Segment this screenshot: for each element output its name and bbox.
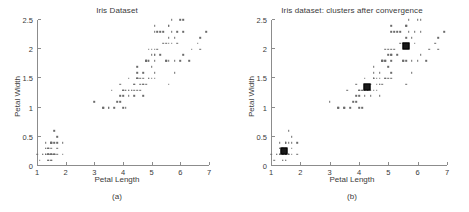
x-tick (330, 162, 331, 165)
data-point (288, 154, 290, 156)
x-axis-line (271, 165, 447, 166)
data-point (145, 83, 147, 85)
data-point (48, 159, 50, 161)
data-point (349, 107, 351, 109)
data-point (388, 66, 390, 68)
data-point (390, 54, 392, 56)
y-tick (272, 77, 275, 78)
data-point (385, 48, 387, 50)
data-point (148, 48, 150, 50)
data-point (188, 60, 190, 62)
data-point (355, 101, 357, 103)
data-point (177, 31, 179, 33)
data-point (139, 89, 141, 91)
data-point (426, 60, 428, 62)
data-point (443, 31, 445, 33)
data-point (119, 95, 121, 97)
panel-a-title: Iris Dataset (0, 6, 234, 15)
data-point (364, 95, 366, 97)
y-tick-label: 1.5 (257, 74, 267, 83)
panel-a-caption: (a) (0, 192, 234, 201)
data-point (390, 78, 392, 80)
data-point (168, 43, 170, 45)
data-point (420, 31, 422, 33)
data-point (182, 19, 184, 21)
y-tick-label: 0 (29, 162, 33, 171)
x-tick (300, 162, 301, 165)
y-tick (272, 136, 275, 137)
data-point (128, 95, 130, 97)
data-point (131, 89, 133, 91)
data-point (361, 107, 363, 109)
data-point (162, 31, 164, 33)
y-tick (272, 165, 275, 166)
data-point (174, 72, 176, 74)
data-point (390, 31, 392, 33)
data-point (154, 78, 156, 80)
y-tick (272, 19, 275, 20)
data-point (171, 31, 173, 33)
data-point (168, 83, 170, 85)
cluster-centroid-marker (363, 84, 370, 91)
data-point (270, 154, 272, 156)
data-point (56, 154, 58, 156)
data-point (402, 60, 404, 62)
data-point (411, 37, 413, 39)
data-point (45, 142, 47, 144)
data-point (197, 43, 199, 45)
data-point (437, 48, 439, 50)
data-point (154, 31, 156, 33)
x-tick (388, 162, 389, 165)
data-point (411, 60, 413, 62)
data-point (168, 25, 170, 27)
data-point (420, 19, 422, 21)
panel-a-y-axis-title: Petal Width (13, 76, 22, 117)
data-point (171, 19, 173, 21)
data-point (180, 60, 182, 62)
data-point (62, 142, 64, 144)
cluster-centroid-marker (402, 43, 409, 50)
data-point (151, 66, 153, 68)
x-tick (37, 162, 38, 165)
data-point (364, 78, 366, 80)
data-point (373, 72, 375, 74)
data-point (142, 72, 144, 74)
data-point (297, 154, 299, 156)
x-tick (418, 162, 419, 165)
x-axis-line (37, 165, 209, 166)
data-point (408, 19, 410, 21)
data-point (157, 31, 159, 33)
data-point (119, 101, 121, 103)
data-point (56, 148, 58, 150)
data-point (344, 107, 346, 109)
data-point (137, 89, 139, 91)
data-point (393, 31, 395, 33)
x-tick (180, 162, 181, 165)
panel-b-plot-area: 00.511.522.51234567 (271, 20, 447, 166)
data-point (376, 83, 378, 85)
data-point (165, 43, 167, 45)
data-point (346, 89, 348, 91)
data-point (51, 142, 53, 144)
data-point (137, 66, 139, 68)
data-point (358, 107, 360, 109)
data-point (417, 60, 419, 62)
data-point (174, 60, 176, 62)
y-tick-label: 0.5 (23, 132, 33, 141)
data-point (376, 89, 378, 91)
y-tick (38, 107, 41, 108)
figure-iris-kmeans: Iris Dataset 00.511.522.51234567 Petal W… (0, 0, 469, 212)
data-point (53, 142, 55, 144)
data-point (45, 154, 47, 156)
data-point (376, 78, 378, 80)
y-tick-label: 1 (29, 103, 33, 112)
data-point (39, 159, 41, 161)
data-point (385, 78, 387, 80)
data-point (114, 107, 116, 109)
data-point (373, 89, 375, 91)
data-point (358, 89, 360, 91)
data-point (134, 95, 136, 97)
y-tick-label: 2.5 (23, 16, 33, 25)
data-point (379, 72, 381, 74)
data-point (94, 101, 96, 103)
